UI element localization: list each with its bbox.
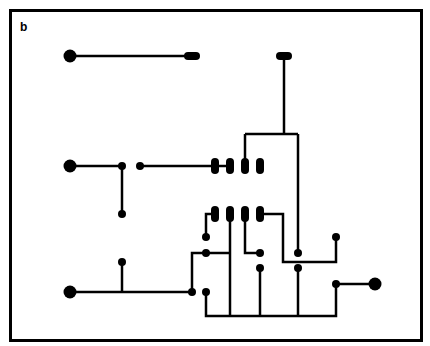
oval-pad-vertical [211,158,219,174]
wire [283,237,336,262]
circuit-schematic [0,0,430,346]
junction-node [294,249,302,257]
wire [206,284,336,316]
oval-pad-vertical [211,206,219,222]
oval-pad-horizontal [184,52,200,60]
terminal-pad [64,50,77,63]
junction-node [202,288,210,296]
junction-node [332,233,340,241]
junction-node [136,162,144,170]
oval-pad-horizontal [276,52,292,60]
junction-node [118,210,126,218]
terminal-pad [64,160,77,173]
junction-node [256,264,264,272]
oval-pad-vertical [256,206,264,222]
junction-node [256,249,264,257]
terminal-pad [64,286,77,299]
oval-pad-vertical [241,206,249,222]
junction-node [294,264,302,272]
oval-pad-vertical [256,158,264,174]
junction-node [118,258,126,266]
oval-pad-vertical [226,158,234,174]
oval-pad-vertical [226,206,234,222]
junction-node [118,162,126,170]
terminal-pad [369,278,382,291]
wire [192,253,206,292]
junction-node [202,249,210,257]
junction-node [188,288,196,296]
junction-node [332,280,340,288]
oval-pad-vertical [241,158,249,174]
junction-node [202,233,210,241]
